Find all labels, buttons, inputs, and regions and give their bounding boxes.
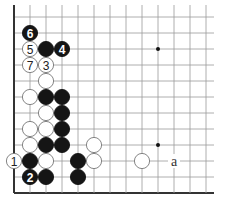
white-stone: [38, 121, 53, 136]
white-stone: [86, 137, 101, 152]
black-stone: [54, 105, 69, 120]
white-stone: 5: [22, 41, 37, 56]
white-stone: [22, 121, 37, 136]
black-stone: 4: [54, 41, 69, 56]
white-stone: [38, 153, 53, 168]
move-number: 5: [27, 43, 34, 57]
move-number: 1: [11, 155, 18, 169]
black-stone: [38, 41, 53, 56]
black-stone: 2: [22, 169, 37, 184]
black-stone: [38, 89, 53, 104]
point-label-a: a: [171, 154, 178, 169]
white-stone: [38, 105, 53, 120]
move-number: 6: [27, 27, 34, 41]
move-number: 2: [27, 171, 34, 185]
black-stone: [38, 137, 53, 152]
black-stone: 6: [22, 25, 37, 40]
black-stone: [54, 121, 69, 136]
black-stone: [70, 153, 85, 168]
white-stone: [86, 153, 101, 168]
white-stone: [22, 137, 37, 152]
white-stone: [134, 153, 149, 168]
star-point-icon: [156, 143, 160, 147]
white-stone: 3: [38, 57, 53, 72]
black-stone: [38, 169, 53, 184]
black-stone: [54, 89, 69, 104]
move-number: 3: [43, 59, 50, 73]
white-stone: [22, 89, 37, 104]
white-stone: [38, 73, 53, 88]
white-stone: 1: [6, 153, 21, 168]
go-board: 6547312 a: [0, 0, 226, 207]
star-point-icon: [156, 47, 160, 51]
move-number: 7: [27, 59, 34, 73]
move-number: 4: [59, 43, 66, 57]
black-stone: [70, 169, 85, 184]
markers: a: [168, 154, 180, 169]
black-stone: [54, 137, 69, 152]
white-stone: 7: [22, 57, 37, 72]
black-stone: [22, 153, 37, 168]
